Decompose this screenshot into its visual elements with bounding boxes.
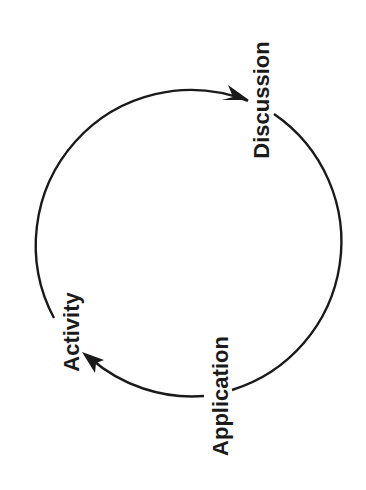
arrowhead-icon — [82, 352, 104, 373]
cycle-diagram: Discussion Application Activity — [0, 0, 366, 490]
arc-application-to-activity — [90, 358, 204, 396]
node-label-activity: Activity — [59, 292, 84, 372]
node-label-application: Application — [208, 336, 233, 456]
arc-activity-to-discussion — [36, 90, 248, 318]
arrowhead-icon — [222, 85, 249, 100]
node-label-discussion: Discussion — [249, 41, 274, 158]
